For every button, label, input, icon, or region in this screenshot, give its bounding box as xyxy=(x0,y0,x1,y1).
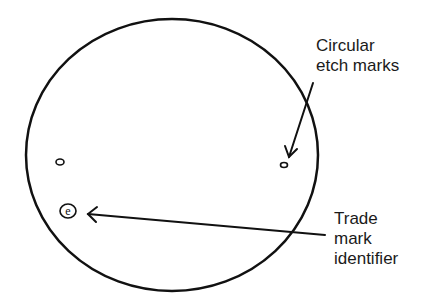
trademark-arrow-icon xyxy=(88,207,325,235)
etch-label-line1: Circular xyxy=(316,36,399,56)
trademark-identifier-label: Trade mark identifier xyxy=(334,209,398,269)
lens-outline xyxy=(26,19,318,291)
trademark-label-line3: identifier xyxy=(334,249,398,269)
etch-marks-label: Circular etch marks xyxy=(316,36,399,76)
etch-mark-right-icon xyxy=(281,163,288,168)
etch-arrow-icon xyxy=(285,83,313,157)
etch-mark-left-icon xyxy=(56,159,64,165)
trademark-label-line2: mark xyxy=(334,229,398,249)
trademark-glyph: e xyxy=(65,204,70,218)
etch-label-line2: etch marks xyxy=(316,56,399,76)
trademark-identifier-icon: e xyxy=(60,204,76,218)
trademark-label-line1: Trade xyxy=(334,209,398,229)
